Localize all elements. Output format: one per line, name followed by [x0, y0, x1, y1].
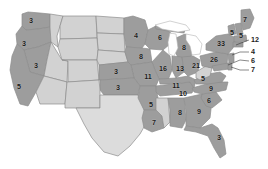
- state-shape-AL[interactable]: [168, 98, 186, 128]
- us-electoral-map[interactable]: 3 3 4 6 8 3 5 8 16 13 21 11 3 3 5 7 8 11…: [0, 0, 268, 169]
- callout-label-MA: 12: [251, 35, 259, 44]
- ev-label-KY: 10: [179, 89, 187, 98]
- ev-label-KS: 3: [114, 67, 118, 76]
- callout-label-MD: 6: [251, 56, 255, 65]
- ev-label-OK: 3: [116, 83, 120, 92]
- ev-label-VA: 5: [201, 74, 205, 83]
- state-shape-SD[interactable]: [97, 33, 125, 52]
- ev-label-NY: 33: [217, 39, 225, 48]
- ev-label-WA: 3: [29, 16, 33, 25]
- callout-leader-DE: [231, 67, 249, 70]
- ev-label-IN: 13: [176, 64, 184, 73]
- state-shape-NM[interactable]: [65, 80, 100, 108]
- ev-label-OH: 21: [192, 61, 200, 70]
- ev-label-IL: 16: [159, 64, 167, 73]
- ev-label-AL: 8: [178, 108, 182, 117]
- state-shape-WY[interactable]: [58, 38, 98, 60]
- ev-label-NV: 3: [34, 61, 38, 70]
- ev-label-WI: 6: [158, 33, 162, 42]
- callout-label-DE: 7: [251, 65, 255, 74]
- ev-label-ME: 7: [243, 15, 247, 24]
- ev-label-IA: 8: [139, 52, 143, 61]
- ev-label-MI: 8: [182, 43, 186, 52]
- ev-label-LA: 7: [152, 118, 156, 127]
- ev-label-GA: 9: [197, 107, 201, 116]
- ev-label-MN: 4: [134, 31, 138, 40]
- ev-label-SC: 6: [207, 96, 211, 105]
- callout-label-NJ: 4: [251, 47, 255, 56]
- ev-label-MO: 11: [144, 72, 152, 81]
- ev-label-OR: 3: [22, 39, 26, 48]
- callout-leader-NJ: [232, 52, 249, 55]
- state-shape-OK[interactable]: [100, 78, 140, 95]
- ev-label-PA: 26: [210, 55, 218, 64]
- ev-label-AR: 5: [149, 100, 153, 109]
- ev-label-FL: 3: [217, 133, 221, 142]
- electoral-map-container: 3 3 4 6 8 3 5 8 16 13 21 11 3 3 5 7 8 11…: [0, 0, 268, 169]
- state-shape-MT[interactable]: [60, 16, 97, 39]
- ev-label-CA: 5: [17, 82, 21, 91]
- state-shape-ND[interactable]: [96, 16, 124, 34]
- state-shape-WA[interactable]: [22, 12, 50, 30]
- ev-label-VT: 5: [230, 28, 234, 37]
- ev-label-NC: 9: [209, 84, 213, 93]
- ev-label-NH: 5: [239, 31, 243, 40]
